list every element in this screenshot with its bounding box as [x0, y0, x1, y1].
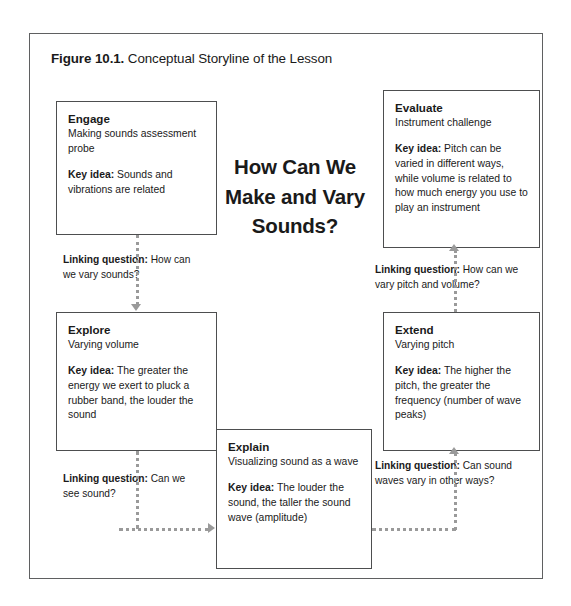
node-explore[interactable]: Explore Varying volume Key idea: The gre…	[56, 312, 217, 451]
node-explain[interactable]: Explain Visualizing sound as a wave Key …	[216, 429, 372, 569]
node-explain-key-idea: Key idea: The louder the sound, the tall…	[228, 481, 361, 525]
connector-explain-to-extend-vertical	[454, 453, 457, 530]
node-extend-key-idea: Key idea: The higher the pitch, the grea…	[395, 364, 529, 423]
connector-engage-to-explore	[136, 235, 139, 305]
center-driving-question: How Can We Make and Vary Sounds?	[212, 152, 378, 241]
arrow-down-icon	[131, 304, 141, 311]
node-explore-title: Explore	[68, 322, 206, 337]
linking-question-extend-to-evaluate: Linking question: How can we vary pitch …	[375, 262, 527, 293]
figure-number: Figure 10.1.	[51, 51, 124, 66]
node-extend-title: Extend	[395, 322, 529, 337]
node-engage[interactable]: Engage Making sounds assessment probe Ke…	[56, 101, 217, 235]
figure-caption: Figure 10.1. Conceptual Storyline of the…	[51, 51, 332, 66]
figure-caption-text: Conceptual Storyline of the Lesson	[124, 51, 332, 66]
node-explain-subtitle: Visualizing sound as a wave	[228, 455, 361, 470]
linking-question-label: Linking question:	[375, 460, 460, 471]
connector-explain-to-extend-horizontal	[372, 528, 456, 531]
linking-question-explain-to-extend: Linking question: Can sound waves vary i…	[375, 458, 523, 489]
linking-question-engage-to-explore: Linking question: How can we vary sounds…	[63, 252, 203, 283]
node-engage-title: Engage	[68, 111, 206, 126]
connector-explore-to-explain-horizontal	[119, 528, 209, 531]
node-explore-subtitle: Varying volume	[68, 338, 206, 353]
key-idea-label: Key idea:	[68, 365, 114, 376]
node-engage-subtitle: Making sounds assessment probe	[68, 127, 206, 157]
key-idea-label: Key idea:	[395, 365, 441, 376]
arrow-up-icon	[449, 244, 459, 251]
node-evaluate-subtitle: Instrument challenge	[395, 116, 529, 131]
figure-frame: Figure 10.1. Conceptual Storyline of the…	[29, 33, 543, 579]
key-idea-label: Key idea:	[395, 143, 441, 154]
node-extend[interactable]: Extend Varying pitch Key idea: The highe…	[383, 312, 540, 451]
node-evaluate-title: Evaluate	[395, 100, 529, 115]
node-extend-subtitle: Varying pitch	[395, 338, 529, 353]
arrow-right-icon	[208, 523, 215, 533]
key-idea-label: Key idea:	[228, 482, 274, 493]
key-idea-label: Key idea:	[68, 169, 114, 180]
node-evaluate[interactable]: Evaluate Instrument challenge Key idea: …	[383, 90, 540, 248]
arrow-up-icon	[449, 447, 459, 454]
node-evaluate-key-idea: Key idea: Pitch can be varied in differe…	[395, 142, 529, 216]
node-explain-title: Explain	[228, 439, 361, 454]
node-explore-key-idea: Key idea: The greater the energy we exer…	[68, 364, 206, 423]
linking-question-label: Linking question:	[375, 264, 460, 275]
connector-extend-to-evaluate	[454, 250, 457, 312]
connector-explore-to-explain-vertical	[136, 451, 139, 529]
node-engage-key-idea: Key idea: Sounds and vibrations are rela…	[68, 168, 206, 198]
linking-question-explore-to-explain: Linking question: Can we see sound?	[63, 471, 203, 502]
